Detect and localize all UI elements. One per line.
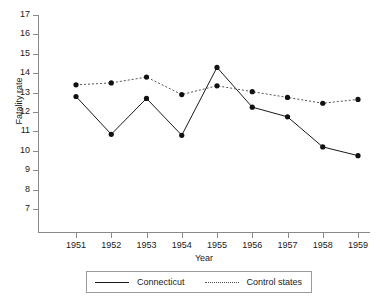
data-point — [109, 80, 114, 85]
data-point — [73, 82, 78, 87]
data-point — [355, 153, 360, 158]
dotted-line-swatch-icon — [205, 278, 239, 286]
data-point — [73, 94, 78, 99]
chart-legend: Connecticut Control states — [86, 271, 312, 293]
x-axis-title: Year — [38, 253, 370, 263]
data-point — [355, 97, 360, 102]
series-line-connecticut — [76, 67, 358, 155]
data-point — [144, 74, 149, 79]
solid-line-swatch-icon — [95, 278, 129, 286]
data-point — [179, 133, 184, 138]
y-axis-title: Fatality rate — [14, 56, 24, 146]
data-point — [285, 95, 290, 100]
data-point — [250, 89, 255, 94]
data-point — [214, 83, 219, 88]
chart-figure: 7891011121314151617 19511952195319541955… — [0, 0, 380, 305]
data-point — [179, 92, 184, 97]
legend-label-connecticut: Connecticut — [137, 277, 185, 287]
data-point — [109, 132, 114, 137]
legend-entry-connecticut: Connecticut — [95, 272, 185, 292]
legend-label-control-states: Control states — [247, 277, 303, 287]
data-point — [320, 144, 325, 149]
data-point — [214, 65, 219, 70]
data-point — [285, 114, 290, 119]
legend-entry-control-states: Control states — [205, 272, 303, 292]
data-point — [144, 96, 149, 101]
series-line-control-states — [76, 77, 358, 103]
data-point — [250, 105, 255, 110]
data-point — [320, 101, 325, 106]
